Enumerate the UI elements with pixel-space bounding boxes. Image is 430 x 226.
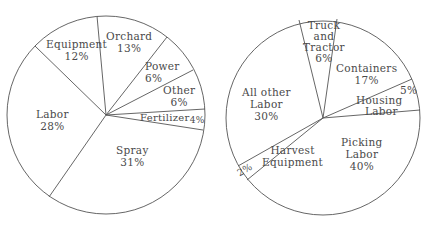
- label-labor-pct: 28%: [36, 120, 69, 132]
- label-equipment-pct: 12%: [46, 50, 107, 62]
- label-housing-pct-wrap: 5%: [400, 84, 417, 96]
- label-housing-line2: Labor: [356, 106, 403, 117]
- label-power-pct: 6%: [145, 72, 180, 84]
- label-harvest-line1: Harvest: [262, 144, 323, 156]
- label-allother-pct: 30%: [242, 110, 291, 122]
- label-labor: Labor 28%: [36, 108, 69, 132]
- label-spray-name: Spray: [116, 144, 149, 156]
- label-harvest-line2: Equipment: [262, 156, 323, 168]
- label-allother-line1: All other: [242, 86, 291, 98]
- label-all-other-labor: All other Labor 30%: [242, 86, 291, 122]
- label-other-pct: 6%: [163, 96, 195, 108]
- label-housing-labor: Housing Labor: [356, 95, 403, 117]
- label-containers-pct: 17%: [336, 74, 397, 86]
- label-allother-line2: Labor: [242, 98, 291, 110]
- label-orchard-name: Orchard: [106, 30, 152, 42]
- label-picking-pct: 40%: [341, 160, 383, 172]
- label-labor-name: Labor: [36, 108, 69, 120]
- label-orchard: Orchard 13%: [106, 30, 152, 54]
- label-power: Power 6%: [145, 60, 180, 84]
- label-equipment: Equipment 12%: [46, 38, 107, 62]
- label-fertilizer-name: Fertilizer: [140, 112, 190, 123]
- label-picking-labor: Picking Labor 40%: [341, 136, 383, 172]
- label-equipment-name: Equipment: [46, 38, 107, 50]
- label-spray-pct: 31%: [116, 156, 149, 168]
- label-picking-line1: Picking: [341, 136, 383, 148]
- slice-boundary: [97, 16, 106, 115]
- label-picking-line2: Labor: [341, 148, 383, 160]
- label-housing-pct: 5%: [400, 84, 417, 96]
- label-power-name: Power: [145, 60, 180, 72]
- label-orchard-pct: 13%: [106, 42, 152, 54]
- label-harvest-equipment: Harvest Equipment: [262, 144, 323, 168]
- label-other: Other 6%: [163, 84, 195, 108]
- label-containers-name: Containers: [336, 62, 397, 74]
- label-fertilizer-pct: 4%: [190, 115, 205, 125]
- label-other-name: Other: [163, 84, 195, 96]
- label-spray: Spray 31%: [116, 144, 149, 168]
- label-fertilizer: Fertilizer4%: [140, 112, 205, 124]
- label-truck-and-tractor: Truck and Tractor 6%: [303, 20, 345, 64]
- label-containers: Containers 17%: [336, 62, 397, 86]
